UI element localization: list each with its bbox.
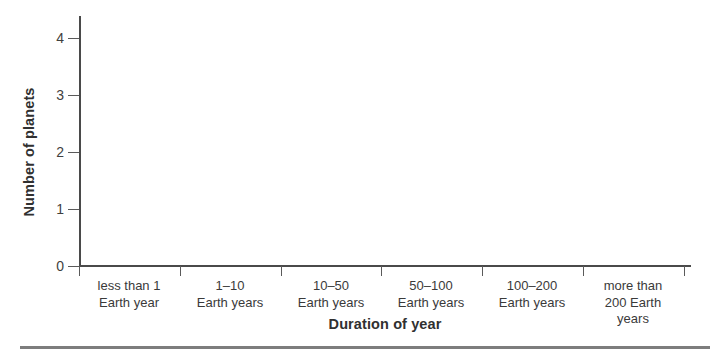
plot-area (81, 17, 691, 265)
x-axis-tick-4 (482, 266, 483, 276)
y-axis-tick-label-2: 2 (44, 145, 64, 159)
x-axis-category-label-5: more than 200 Earth years (578, 278, 688, 328)
x-axis-tick-0 (79, 266, 80, 276)
x-axis-line (79, 265, 691, 267)
x-axis-title: Duration of year (250, 316, 520, 332)
y-axis-tick-3 (68, 95, 79, 96)
y-axis-tick-2 (68, 152, 79, 153)
x-axis-tick-3 (381, 266, 382, 276)
x-axis-tick-2 (281, 266, 282, 276)
x-axis-category-label-4: 100–200 Earth years (477, 278, 587, 311)
x-axis-category-label-3: 50–100 Earth years (376, 278, 486, 311)
y-axis-tick-1 (68, 209, 79, 210)
y-axis-tick-0 (68, 266, 79, 267)
y-axis-tick-4 (68, 38, 79, 39)
x-axis-category-label-1: 1–10 Earth years (175, 278, 285, 311)
y-axis-tick-label-0: 0 (44, 259, 64, 273)
y-axis-title: Number of planets (18, 27, 40, 277)
y-axis-tick-label-3: 3 (44, 88, 64, 102)
x-axis-tick-5 (583, 266, 584, 276)
y-axis-tick-label-4: 4 (44, 31, 64, 45)
x-axis-tick-1 (180, 266, 181, 276)
x-axis-category-label-0: less than 1 Earth year (74, 278, 184, 311)
y-axis-tick-label-1: 1 (44, 202, 64, 216)
bar-chart-figure: Number of planets 4 3 2 1 0 less than 1 … (0, 0, 713, 360)
x-axis-category-label-2: 10–50 Earth years (276, 278, 386, 311)
bottom-divider-rule (20, 346, 710, 349)
x-axis-tick-6 (684, 266, 685, 276)
